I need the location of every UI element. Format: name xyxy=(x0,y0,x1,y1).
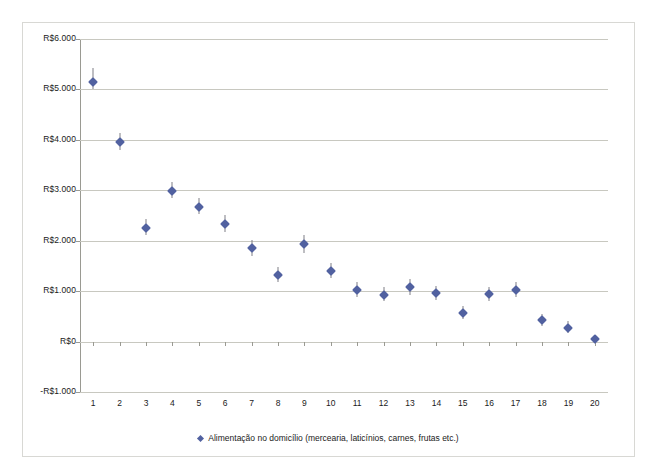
x-axis-tick xyxy=(436,342,437,346)
x-axis-tick-label: 10 xyxy=(326,398,335,408)
x-axis-tick-label: 11 xyxy=(353,398,362,408)
x-axis-tick xyxy=(120,342,121,346)
data-point-marker[interactable] xyxy=(458,308,468,318)
x-axis-labels: 1234567891011121314151617181920 xyxy=(80,398,608,414)
x-axis-tick-label: 4 xyxy=(170,398,175,408)
y-axis-tick-label: R$5.000 xyxy=(43,83,76,93)
x-axis-tick-label: 16 xyxy=(484,398,493,408)
gridline xyxy=(80,241,608,242)
x-axis-tick-label: 12 xyxy=(379,398,388,408)
y-axis-tick-label: R$0 xyxy=(60,336,76,346)
y-axis-tick-label: R$1.000 xyxy=(43,285,76,295)
y-axis-tick xyxy=(76,89,80,90)
y-axis-line xyxy=(80,39,81,392)
y-axis-tick-label: -R$1.000 xyxy=(40,386,76,396)
x-axis-tick xyxy=(489,342,490,346)
plot-area xyxy=(80,39,608,392)
data-point-marker[interactable] xyxy=(88,77,98,87)
y-axis-tick xyxy=(76,291,80,292)
y-axis-tick-label: R$6.000 xyxy=(43,33,76,43)
x-axis-tick xyxy=(463,342,464,346)
x-axis-tick-label: 2 xyxy=(117,398,122,408)
x-axis-tick xyxy=(331,342,332,346)
x-axis-tick-label: 15 xyxy=(458,398,467,408)
chart-frame: R$6.000R$5.000R$4.000R$3.000R$2.000R$1.0… xyxy=(22,22,635,457)
data-point-marker[interactable] xyxy=(220,219,230,229)
x-axis-tick xyxy=(93,342,94,346)
y-axis-tick xyxy=(76,342,80,343)
x-axis-tick xyxy=(542,342,543,346)
x-axis-tick xyxy=(225,342,226,346)
data-point-marker[interactable] xyxy=(115,137,125,147)
y-axis-tick xyxy=(76,190,80,191)
gridline xyxy=(80,89,608,90)
data-point-marker[interactable] xyxy=(167,186,177,196)
x-axis-tick-label: 1 xyxy=(91,398,96,408)
data-point-marker[interactable] xyxy=(431,288,441,298)
gridline xyxy=(80,39,608,40)
legend-label: Alimentação no domicílio (mercearia, lat… xyxy=(208,433,458,443)
x-axis-tick-label: 14 xyxy=(432,398,441,408)
x-axis-tick-label: 3 xyxy=(144,398,149,408)
y-axis-tick xyxy=(76,39,80,40)
data-point-marker[interactable] xyxy=(194,202,204,212)
x-axis-tick-label: 9 xyxy=(302,398,307,408)
y-axis-labels: R$6.000R$5.000R$4.000R$3.000R$2.000R$1.0… xyxy=(23,39,76,392)
y-axis-tick xyxy=(76,241,80,242)
x-axis-tick xyxy=(172,342,173,346)
y-axis-tick xyxy=(76,392,80,393)
data-point-marker[interactable] xyxy=(537,315,547,325)
x-axis-tick-label: 18 xyxy=(537,398,546,408)
data-point-marker[interactable] xyxy=(563,323,573,333)
x-axis-tick xyxy=(199,342,200,346)
gridline xyxy=(80,392,608,393)
y-axis-tick-label: R$4.000 xyxy=(43,134,76,144)
x-axis-tick xyxy=(357,342,358,346)
x-axis-tick-label: 20 xyxy=(590,398,599,408)
x-axis-tick-label: 8 xyxy=(276,398,281,408)
gridline xyxy=(80,291,608,292)
x-axis-tick xyxy=(252,342,253,346)
data-point-marker[interactable] xyxy=(141,223,151,233)
gridline xyxy=(80,342,608,343)
x-axis-tick-label: 13 xyxy=(405,398,414,408)
x-axis-tick xyxy=(410,342,411,346)
diamond-marker-icon xyxy=(197,434,204,441)
x-axis-tick xyxy=(278,342,279,346)
x-axis-tick xyxy=(304,342,305,346)
x-axis-tick-label: 6 xyxy=(223,398,228,408)
x-axis-tick xyxy=(568,342,569,346)
x-axis-tick-label: 17 xyxy=(511,398,520,408)
data-point-marker[interactable] xyxy=(511,285,521,295)
x-axis-tick-label: 19 xyxy=(564,398,573,408)
chart-legend: Alimentação no domicílio (mercearia, lat… xyxy=(23,433,634,443)
gridline xyxy=(80,140,608,141)
y-axis-tick-label: R$2.000 xyxy=(43,235,76,245)
x-axis-tick xyxy=(516,342,517,346)
x-axis-tick xyxy=(146,342,147,346)
data-point-marker[interactable] xyxy=(352,285,362,295)
y-axis-tick xyxy=(76,140,80,141)
x-axis-tick-label: 7 xyxy=(249,398,254,408)
data-point-marker[interactable] xyxy=(326,266,336,276)
data-point-marker[interactable] xyxy=(247,243,257,253)
data-point-marker[interactable] xyxy=(273,270,283,280)
gridline xyxy=(80,190,608,191)
x-axis-tick xyxy=(384,342,385,346)
x-axis-tick-label: 5 xyxy=(196,398,201,408)
y-axis-tick-label: R$3.000 xyxy=(43,184,76,194)
